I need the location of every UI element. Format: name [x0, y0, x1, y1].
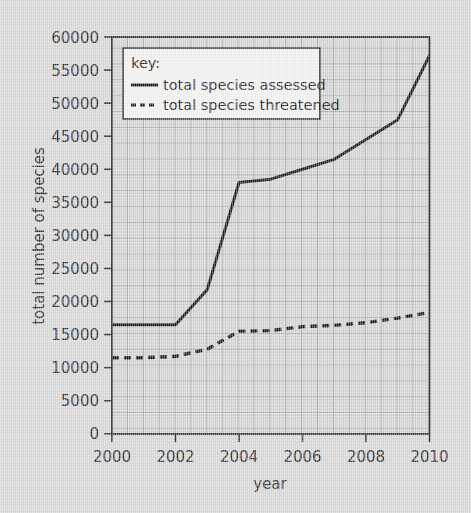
x-tick-label: 2002 [156, 448, 194, 466]
legend-label-assessed: total species assessed [163, 77, 326, 93]
y-tick-label: 55000 [51, 62, 99, 80]
x-tick-label: 2010 [410, 448, 448, 466]
y-tick-label: 60000 [51, 29, 99, 47]
x-tick-label: 2000 [93, 448, 131, 466]
x-tick-label: 2004 [220, 448, 258, 466]
legend-title: key: [131, 55, 160, 71]
y-tick-label: 5000 [61, 392, 99, 410]
y-tick-label: 45000 [51, 128, 99, 146]
y-axis-ticks [104, 37, 112, 434]
y-tick-label: 15000 [51, 326, 99, 344]
line-chart-figure: 60000 55000 50000 45000 40000 35000 3000… [0, 0, 471, 513]
chart-canvas: 60000 55000 50000 45000 40000 35000 3000… [0, 0, 471, 513]
x-tick-label: 2006 [283, 448, 321, 466]
x-tick-label: 2008 [347, 448, 385, 466]
y-tick-label: 25000 [51, 260, 99, 278]
legend: key: total species assessed total specie… [123, 48, 340, 119]
x-axis-ticks [112, 434, 430, 442]
y-tick-label: 50000 [51, 95, 99, 113]
y-tick-label: 0 [89, 425, 99, 443]
y-axis-tick-labels: 60000 55000 50000 45000 40000 35000 3000… [51, 29, 99, 444]
x-axis-title: year [253, 475, 287, 493]
x-axis-tick-labels: 2000 2002 2004 2006 2008 2010 [93, 448, 449, 466]
y-tick-label: 20000 [51, 293, 99, 311]
legend-label-threatened: total species threatened [163, 97, 340, 113]
y-tick-label: 35000 [51, 194, 99, 212]
y-tick-label: 30000 [51, 227, 99, 245]
y-axis-title: total number of species [30, 147, 48, 325]
y-tick-label: 10000 [51, 359, 99, 377]
y-tick-label: 40000 [51, 161, 99, 179]
